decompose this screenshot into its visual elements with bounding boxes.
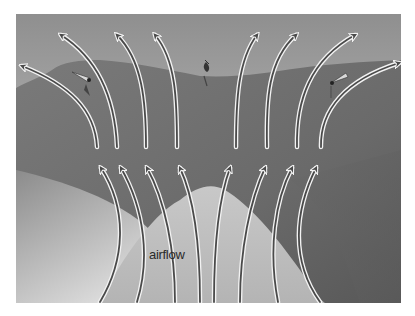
scene	[16, 14, 401, 303]
airflow-diagram	[0, 0, 415, 316]
airflow-label: airflow	[149, 247, 184, 262]
